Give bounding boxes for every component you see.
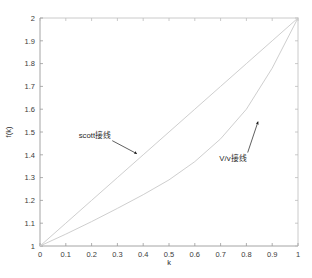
x-tick-label: 0.6 [190,250,200,259]
chart-figure: 00.10.20.30.40.50.60.70.80.91 11.11.21.3… [0,0,312,278]
y-axis-title: f(k) [4,126,13,137]
y-tick-label: 1.2 [25,196,35,205]
annotation-label-0: scott接线 [79,130,111,140]
annotation-label-1: V/v接线 [219,153,246,163]
y-tick-label: 1.8 [25,59,35,68]
x-tick-label: 0.9 [267,250,277,259]
x-tick-label: 0.2 [86,250,96,259]
x-tick-label: 0 [38,250,42,259]
line-chart: 00.10.20.30.40.50.60.70.80.91 11.11.21.3… [0,0,312,278]
y-tick-label: 1 [31,242,35,251]
y-tick-label: 1.4 [25,151,35,160]
y-tick-label: 1.9 [25,37,35,46]
x-tick-label: 0.1 [61,250,71,259]
y-tick-label: 2 [31,14,35,23]
y-tick-label: 1.7 [25,82,35,91]
chart-background [0,0,312,278]
x-tick-label: 0.3 [112,250,122,259]
x-tick-label: 0.7 [215,250,225,259]
x-tick-label: 0.8 [241,250,251,259]
x-tick-label: 1 [296,250,300,259]
y-tick-label: 1.3 [25,173,35,182]
x-tick-label: 0.4 [138,250,148,259]
y-tick-label: 1.6 [25,105,35,114]
y-tick-label: 1.1 [25,219,35,228]
y-tick-label: 1.5 [25,128,35,137]
x-axis-title: k [167,258,171,267]
